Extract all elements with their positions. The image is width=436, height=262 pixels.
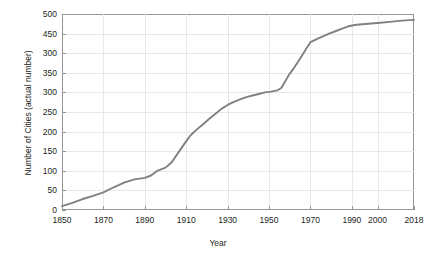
y-axis-title: Number of Cities (actual number) [23, 23, 33, 203]
x-axis-tick-label: 1850 [53, 215, 72, 225]
y-axis-tick-label: 100 [43, 166, 57, 176]
y-axis-tick-label: 50 [48, 185, 57, 195]
x-axis-tick-label: 1930 [218, 215, 237, 225]
x-axis-tick-label: 1950 [260, 215, 279, 225]
x-axis-tick-label: 1970 [301, 215, 320, 225]
plot-area: 050100150200250300350300450500 185018701… [62, 14, 414, 210]
x-axis-tick-label: 1990 [342, 215, 361, 225]
y-axis-tick-label: 250 [43, 107, 57, 117]
y-axis-tick-label: 300 [43, 87, 57, 97]
y-axis-tick-label: 350 [43, 68, 57, 78]
x-axis-tick-mark [414, 206, 415, 210]
x-axis-tick-label: 2000 [368, 215, 387, 225]
x-axis-title: Year [0, 238, 436, 248]
y-axis-tick-label: 300 [43, 48, 57, 58]
y-axis-tick-mark [62, 210, 66, 211]
x-axis-tick-label: 1890 [135, 215, 154, 225]
y-axis-tick-label: 0 [52, 205, 57, 215]
line-chart: Number of Cities (actual number) 0501001… [0, 0, 436, 262]
x-axis-tick-label: 1910 [177, 215, 196, 225]
y-axis-tick-label: 500 [43, 9, 57, 19]
x-axis-tick-label: 1870 [94, 215, 113, 225]
y-axis-tick-label: 200 [43, 127, 57, 137]
x-axis-tick-label: 2018 [405, 215, 424, 225]
series-line-number-of-cities [62, 14, 414, 210]
y-axis-tick-label: 150 [43, 146, 57, 156]
y-axis-tick-label: 450 [43, 29, 57, 39]
